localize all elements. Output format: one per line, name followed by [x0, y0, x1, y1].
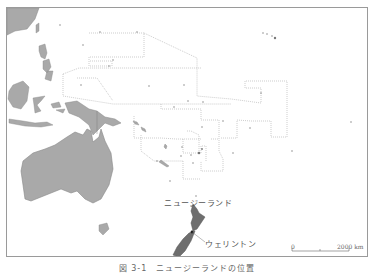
oceania-map	[7, 8, 368, 257]
scale-end-label: 2000 km	[337, 243, 364, 250]
asia-landmass	[7, 8, 39, 35]
map-frame	[6, 7, 368, 257]
philippines	[39, 44, 53, 81]
new-zealand-label: ニュージーランド	[164, 197, 232, 208]
figure-caption: 図 3-1 ニュージーランドの位置	[0, 262, 374, 273]
borneo	[8, 81, 29, 109]
wellington-label: ウェリントン	[205, 238, 256, 249]
new-zealand-south-island	[173, 231, 195, 257]
australia	[21, 129, 113, 203]
new-zealand-north-island	[191, 204, 205, 231]
scale-start-label: 0	[291, 243, 295, 250]
new-guinea	[65, 101, 121, 135]
